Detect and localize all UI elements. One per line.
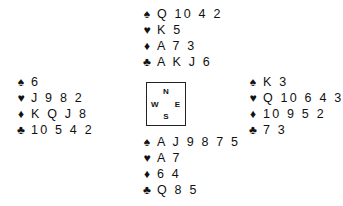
west-hearts: J 9 8 2 [31,90,84,106]
west-diamonds-row: ♦K Q J 8 [16,106,94,122]
north-hearts: K 5 [157,22,182,38]
south-spades: A J 9 8 7 5 [157,134,240,150]
spade-icon: ♠ [142,134,152,150]
west-diamonds: K Q J 8 [31,106,88,122]
north-diamonds: A 7 3 [157,38,197,54]
north-hearts-row: ♥K 5 [142,22,223,38]
north-hand: ♠Q 10 4 2 ♥K 5 ♦A 7 3 ♣A K J 6 [142,6,223,70]
south-hand: ♠A J 9 8 7 5 ♥A 7 ♦6 4 ♣Q 8 5 [142,134,240,198]
west-clubs: 10 5 4 2 [31,122,94,138]
spade-icon: ♠ [248,74,258,90]
club-icon: ♣ [16,122,26,138]
diamond-icon: ♦ [16,106,26,122]
club-icon: ♣ [142,182,152,198]
heart-icon: ♥ [142,22,152,38]
east-hearts: Q 10 6 4 3 [263,90,343,106]
compass-south: S [163,112,168,121]
north-clubs: A K J 6 [157,54,212,70]
south-hearts-row: ♥A 7 [142,150,240,166]
north-diamonds-row: ♦A 7 3 [142,38,223,54]
east-hand: ♠K 3 ♥Q 10 6 4 3 ♦10 9 5 2 ♣7 3 [248,74,343,138]
compass-box: N W E S [146,82,186,126]
spade-icon: ♠ [16,74,26,90]
east-clubs-row: ♣7 3 [248,122,343,138]
compass-north: N [163,87,169,96]
west-hand: ♠6 ♥J 9 8 2 ♦K Q J 8 ♣10 5 4 2 [16,74,94,138]
south-diamonds: 6 4 [157,166,181,182]
west-hearts-row: ♥J 9 8 2 [16,90,94,106]
diamond-icon: ♦ [248,106,258,122]
south-diamonds-row: ♦6 4 [142,166,240,182]
west-clubs-row: ♣10 5 4 2 [16,122,94,138]
west-spades-row: ♠6 [16,74,94,90]
spade-icon: ♠ [142,6,152,22]
east-diamonds-row: ♦10 9 5 2 [248,106,343,122]
south-spades-row: ♠A J 9 8 7 5 [142,134,240,150]
club-icon: ♣ [248,122,258,138]
compass-east: E [175,100,180,109]
east-hearts-row: ♥Q 10 6 4 3 [248,90,343,106]
east-spades-row: ♠K 3 [248,74,343,90]
diamond-icon: ♦ [142,166,152,182]
north-spades-row: ♠Q 10 4 2 [142,6,223,22]
east-clubs: 7 3 [263,122,287,138]
south-clubs: Q 8 5 [157,182,199,198]
north-spades: Q 10 4 2 [157,6,223,22]
compass-west: W [151,100,159,109]
heart-icon: ♥ [142,150,152,166]
heart-icon: ♥ [16,90,26,106]
north-clubs-row: ♣A K J 6 [142,54,223,70]
diamond-icon: ♦ [142,38,152,54]
south-clubs-row: ♣Q 8 5 [142,182,240,198]
heart-icon: ♥ [248,90,258,106]
south-hearts: A 7 [157,150,182,166]
west-spades: 6 [31,74,40,90]
east-spades: K 3 [263,74,288,90]
club-icon: ♣ [142,54,152,70]
east-diamonds: 10 9 5 2 [263,106,326,122]
